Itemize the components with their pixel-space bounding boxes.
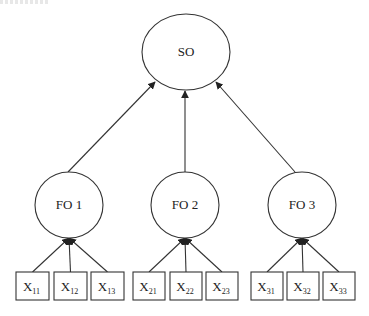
fo2-label: FO 2: [172, 197, 198, 212]
fo1-label: FO 1: [56, 197, 82, 212]
indicator-x33: X33: [323, 272, 355, 300]
edge-x32-to-fo3: [302, 238, 303, 272]
indicator-x22: X22: [170, 272, 202, 300]
node-fo2: FO 2: [151, 172, 219, 238]
edge-x12-to-fo1: [69, 238, 71, 272]
indicator-x12: X12: [54, 272, 87, 300]
edge-fo3-to-so: [216, 82, 295, 172]
so-label: SO: [178, 44, 195, 59]
edge-x31-to-fo3: [267, 238, 302, 272]
edge-x33-to-fo3: [302, 238, 339, 272]
node-so: SO: [142, 14, 230, 90]
fo3-label: FO 3: [289, 197, 315, 212]
edge-x13-to-fo1: [69, 238, 108, 272]
edge-x11-to-fo1: [33, 238, 70, 272]
indicator-x13: X13: [91, 272, 124, 300]
indicator-x32: X32: [287, 272, 319, 300]
edge-x21-to-fo2: [149, 238, 185, 272]
edge-x22-to-fo2: [185, 238, 186, 272]
indicator-x11: X11: [16, 272, 49, 300]
factor-model-diagram: SOFO 1X11X12X13FO 2X21X22X23FO 3X31X32X3…: [0, 0, 369, 316]
edge-x23-to-fo2: [185, 238, 222, 272]
edge-fo1-to-so: [68, 82, 155, 172]
indicator-x23: X23: [206, 272, 238, 300]
indicator-x31: X31: [251, 272, 283, 300]
node-fo3: FO 3: [268, 172, 336, 238]
indicator-x21: X21: [133, 272, 165, 300]
node-fo1: FO 1: [35, 172, 103, 238]
